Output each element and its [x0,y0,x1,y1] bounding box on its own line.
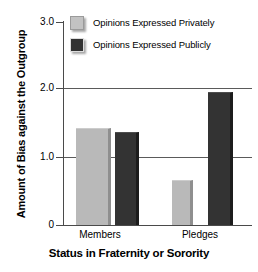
x-axis-line [56,225,252,226]
x-tick-label-pledges: Pledges [165,229,235,241]
legend-swatch-publicly-icon [70,38,84,52]
bar-chart: Amount of Bias against the Outgroup 3.0 … [0,0,258,272]
legend-label-privately: Opinions Expressed Privately [93,18,214,28]
y-tick-label-0: 0 [18,220,54,230]
bar-members-publicly [115,132,139,225]
y-axis-title: Amount of Bias against the Outgroup [15,19,27,229]
legend-item-publicly: Opinions Expressed Publicly [70,34,214,56]
chart-legend: Opinions Expressed Privately Opinions Ex… [70,12,214,56]
y-tick-label-1: 1.0 [18,152,54,162]
bar-members-privately [76,128,111,225]
legend-swatch-privately-icon [70,16,84,30]
legend-item-privately: Opinions Expressed Privately [70,12,214,34]
x-tick-label-members: Members [60,229,140,241]
bar-pledges-privately [172,180,193,225]
legend-label-publicly: Opinions Expressed Publicly [93,40,211,50]
x-axis-title: Status in Fraternity or Sorority [0,247,258,259]
bar-pledges-publicly [208,92,233,225]
y-tick-label-3: 3.0 [18,17,54,27]
y-tick-label-2: 2.0 [18,83,54,93]
